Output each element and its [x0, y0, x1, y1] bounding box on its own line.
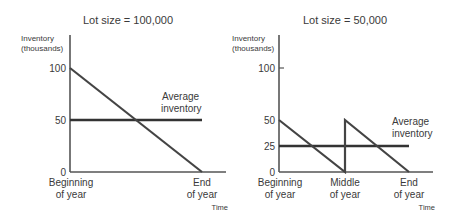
- x-tick-beginning-2: of year: [56, 189, 87, 200]
- y-axis-label: Inventory: [232, 34, 265, 43]
- x-tick-middle-2: of year: [330, 189, 361, 200]
- chart-title: Lot size = 100,000: [83, 14, 173, 26]
- average-inventory-label-2: inventory: [161, 103, 202, 114]
- y-axis-label: Inventory: [21, 34, 54, 43]
- y-tick-50: 50: [264, 115, 276, 126]
- y-tick-25: 25: [264, 141, 276, 152]
- y-axis-label-units: (thousands): [21, 44, 64, 53]
- x-tick-end-2: of year: [394, 189, 425, 200]
- y-tick-100: 100: [49, 63, 66, 74]
- x-tick-end-2: of year: [187, 189, 218, 200]
- average-inventory-label-2: inventory: [392, 128, 433, 139]
- y-axis-label-units: (thousands): [232, 44, 275, 53]
- chart-title: Lot size = 50,000: [303, 14, 387, 26]
- x-tick-end: End: [193, 177, 211, 188]
- x-tick-beginning: Beginning: [258, 177, 302, 188]
- x-tick-beginning-2: of year: [265, 189, 296, 200]
- x-axis-label: Time: [419, 203, 435, 212]
- charts-canvas: Lot size = 100,000 Inventory (thousands)…: [0, 0, 455, 220]
- x-tick-end: End: [400, 177, 418, 188]
- average-inventory-label: Average: [162, 91, 200, 102]
- x-axis-label: Time: [212, 203, 228, 212]
- y-tick-100: 100: [258, 63, 275, 74]
- y-tick-50: 50: [55, 115, 67, 126]
- x-tick-middle: Middle: [330, 177, 360, 188]
- x-tick-beginning: Beginning: [49, 177, 93, 188]
- chart-left: Lot size = 100,000 Inventory (thousands)…: [21, 14, 228, 212]
- average-inventory-label: Average: [392, 116, 430, 127]
- chart-right: Lot size = 50,000 Inventory (thousands) …: [232, 14, 435, 212]
